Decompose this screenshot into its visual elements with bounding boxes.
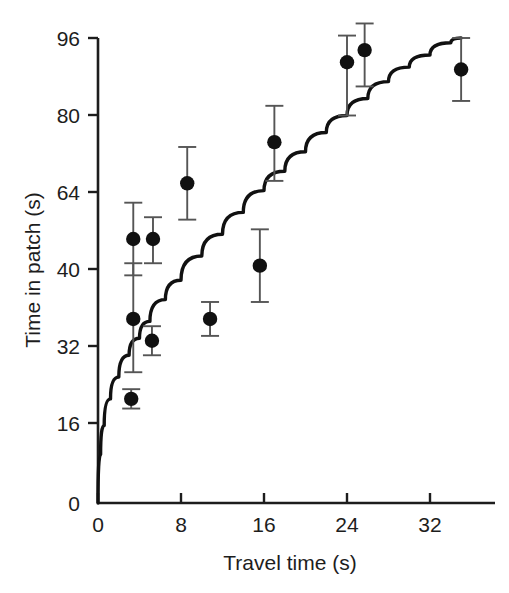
x-ticklabel-8: 8: [175, 513, 187, 536]
data-point: [144, 217, 162, 263]
x-ticklabel-16: 16: [252, 513, 275, 536]
y-ticklabel-0: 0: [68, 492, 80, 515]
data-point: [178, 147, 196, 220]
data-point: [201, 302, 219, 336]
axes: [98, 38, 495, 503]
x-axis-title: Travel time (s): [223, 551, 356, 574]
y-axis-tick-labels: 96 80 64 40 32 16 0: [57, 27, 81, 515]
data-points-layer: [122, 23, 470, 408]
y-ticklabel-96: 96: [57, 27, 80, 50]
fitted-curve: [98, 38, 461, 503]
data-point: [124, 203, 142, 276]
data-point-marker: [126, 312, 140, 326]
data-point: [143, 326, 161, 355]
scatter-plot-with-fitted-curve: 96 80 64 40 32 16 0 0 8 16 24 32 Travel …: [0, 0, 509, 593]
data-point: [452, 38, 470, 101]
y-ticklabel-40: 40: [57, 258, 80, 281]
y-ticklabel-16: 16: [57, 412, 80, 435]
data-point-marker: [203, 312, 217, 326]
y-axis-title: Time in patch (s): [21, 192, 44, 348]
data-point-marker: [124, 392, 138, 406]
x-ticklabel-32: 32: [418, 513, 441, 536]
x-axis-ticks: [98, 493, 430, 503]
data-point-marker: [146, 232, 160, 246]
data-point: [356, 23, 374, 86]
y-axis-ticks: [88, 38, 98, 423]
data-point: [122, 389, 140, 408]
data-point: [265, 106, 283, 181]
x-axis-tick-labels: 0 8 16 24 32: [92, 513, 442, 536]
x-ticklabel-24: 24: [335, 513, 359, 536]
y-ticklabel-32: 32: [57, 335, 80, 358]
data-point-marker: [357, 43, 371, 57]
data-point-marker: [454, 62, 468, 76]
y-ticklabel-64: 64: [57, 181, 81, 204]
data-point-marker: [126, 232, 140, 246]
data-point-marker: [253, 258, 267, 272]
x-ticklabel-0: 0: [92, 513, 104, 536]
figure-panel: 96 80 64 40 32 16 0 0 8 16 24 32 Travel …: [0, 0, 509, 593]
data-point: [251, 229, 269, 302]
data-point-marker: [340, 55, 354, 69]
data-point-marker: [145, 334, 159, 348]
data-point-marker: [180, 176, 194, 190]
y-ticklabel-80: 80: [57, 104, 80, 127]
data-point-marker: [267, 135, 281, 149]
